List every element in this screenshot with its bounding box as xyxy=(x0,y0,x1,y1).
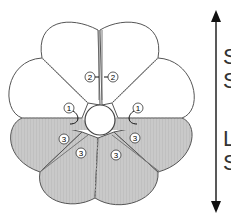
side-label-upper-2: S xyxy=(223,70,231,92)
arrow-down-icon xyxy=(211,201,221,213)
center-circle xyxy=(85,105,115,135)
svg-text:1: 1 xyxy=(136,104,141,113)
svg-text:3: 3 xyxy=(114,151,119,160)
side-label-lower-1: L xyxy=(223,128,231,150)
side-label-upper-1: S xyxy=(223,46,231,68)
marker-3-left-b: 3 xyxy=(76,148,86,158)
side-label-lower-2: S xyxy=(223,152,231,174)
svg-text:1: 1 xyxy=(67,104,72,113)
svg-text:3: 3 xyxy=(133,134,138,143)
marker-3-right-a: 3 xyxy=(130,133,140,143)
svg-text:3: 3 xyxy=(79,149,84,158)
arrow-up-icon xyxy=(211,10,221,22)
marker-3-left-a: 3 xyxy=(59,134,69,144)
marker-3-right-b: 3 xyxy=(111,150,121,160)
flower-diagram: 2 2 1 1 3 3 3 xyxy=(0,0,231,218)
svg-text:3: 3 xyxy=(62,135,67,144)
svg-text:2: 2 xyxy=(88,73,93,82)
height-arrow xyxy=(211,10,221,213)
svg-text:2: 2 xyxy=(111,73,116,82)
